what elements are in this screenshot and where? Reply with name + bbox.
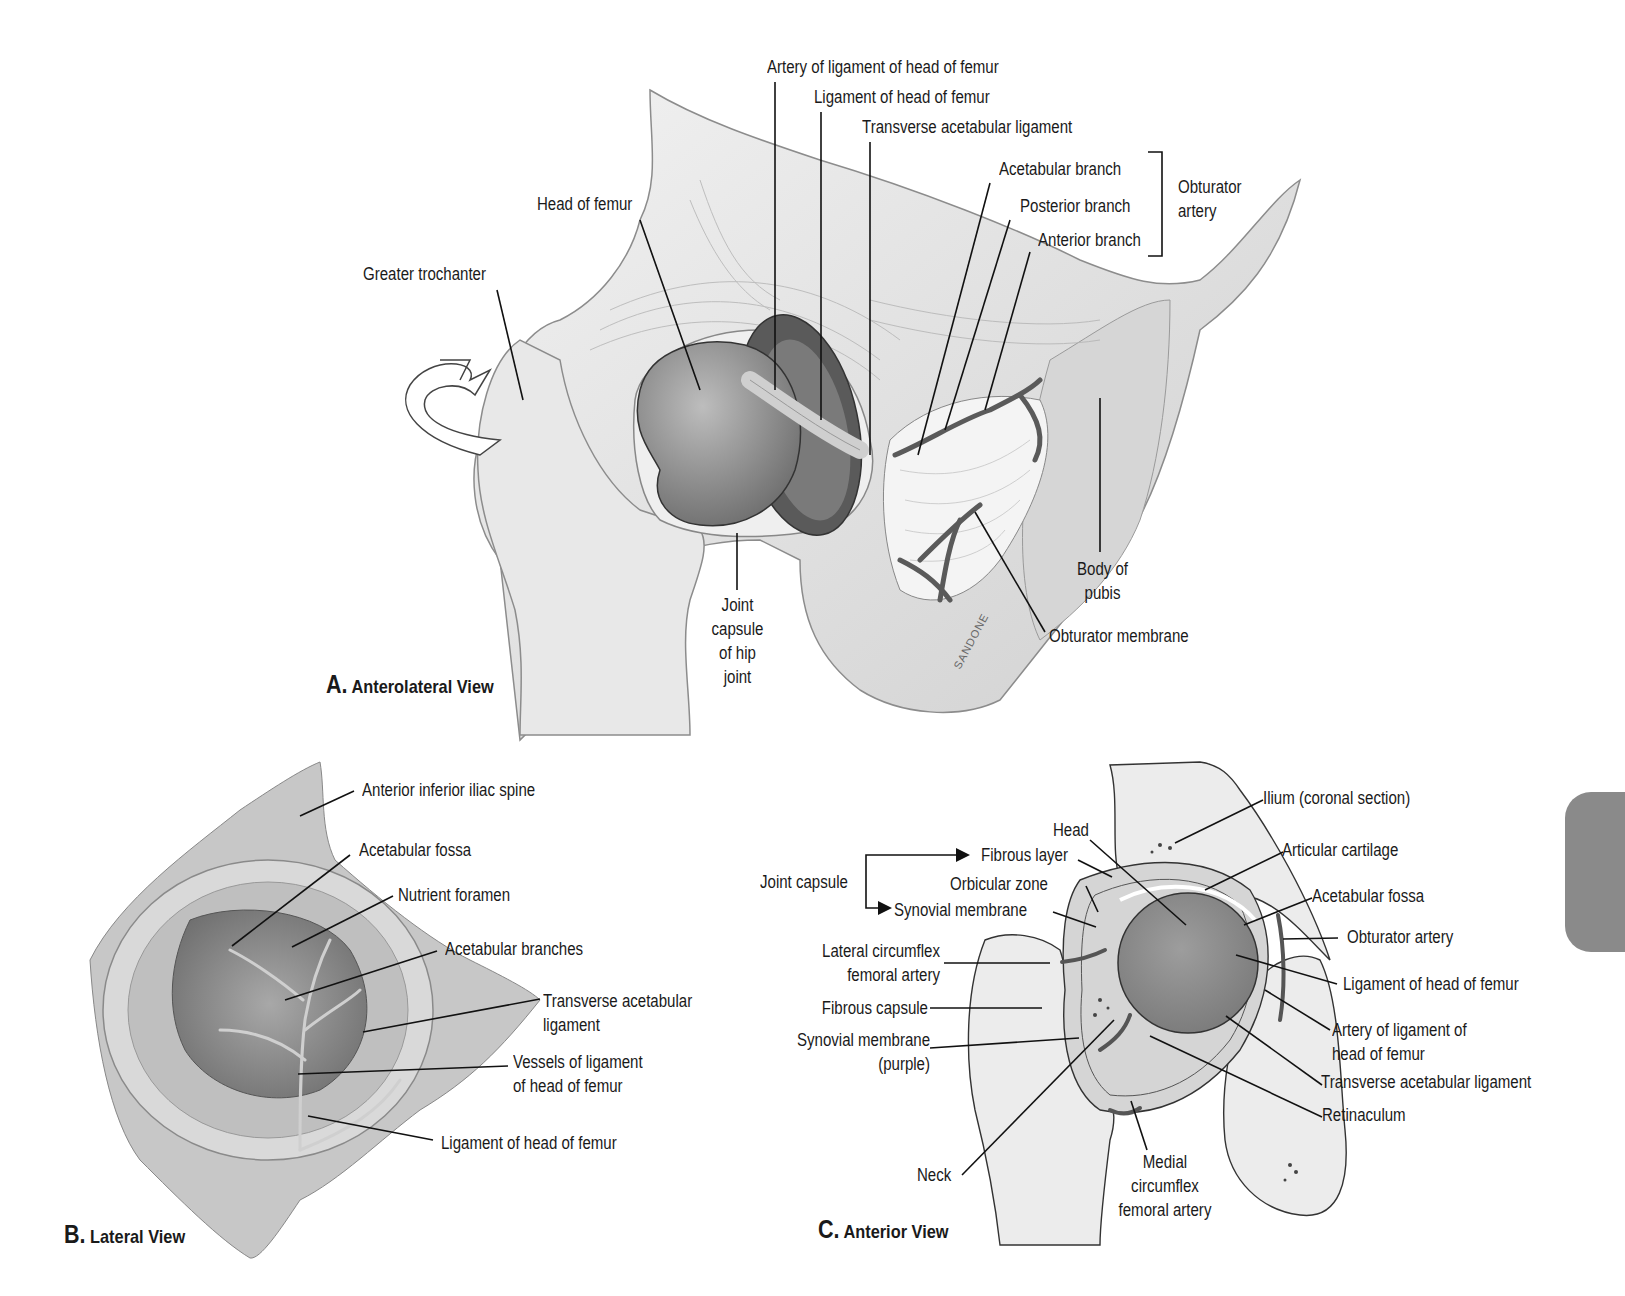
label-b-acetabular-branches: Acetabular branches — [445, 937, 583, 961]
panel-b-title-text: Lateral View — [90, 1226, 185, 1247]
label-c-artery-ligament-head: Artery of ligament of head of femur — [1332, 1018, 1467, 1066]
panel-c-letter: C. — [818, 1215, 840, 1243]
label-c-fibrous-capsule: Fibrous capsule — [784, 996, 928, 1020]
panel-b-title: B. Lateral View — [64, 1220, 185, 1249]
label-c-retinaculum: Retinaculum — [1322, 1103, 1406, 1127]
label-a-joint-capsule: Joint capsule of hip joint — [705, 593, 770, 689]
label-c-obturator-artery: Obturator artery — [1347, 925, 1453, 949]
panel-a-title-text: Anterolateral View — [351, 676, 493, 697]
label-b-vessels-ligament: Vessels of ligament of head of femur — [513, 1050, 643, 1098]
label-a-ligament-head: Ligament of head of femur — [814, 85, 990, 109]
label-b-transverse-acetabular: Transverse acetabular ligament — [543, 989, 692, 1037]
label-b-nutrient-foramen: Nutrient foramen — [398, 883, 510, 907]
label-c-lateral-circumflex: Lateral circumflex femoral artery — [785, 939, 940, 987]
label-b-ligament-head: Ligament of head of femur — [441, 1131, 617, 1155]
label-a-artery-ligament-head: Artery of ligament of head of femur — [767, 55, 999, 79]
label-a-transverse-acetabular: Transverse acetabular ligament — [862, 115, 1072, 139]
label-a-body-of-pubis: Body of pubis — [1070, 557, 1135, 605]
label-c-orbicular-zone: Orbicular zone — [950, 872, 1048, 896]
label-c-synovial-membrane: Synovial membrane — [894, 898, 1027, 922]
label-c-head: Head — [1053, 818, 1089, 842]
label-a-acetabular-branch: Acetabular branch — [999, 157, 1121, 181]
panel-a-title: A. Anterolateral View — [326, 670, 494, 699]
label-a-head-of-femur: Head of femur — [537, 192, 632, 216]
label-a-greater-trochanter: Greater trochanter — [363, 262, 486, 286]
label-c-synovial-purple: Synovial membrane (purple) — [767, 1028, 930, 1076]
label-c-acetabular-fossa: Acetabular fossa — [1312, 884, 1424, 908]
chapter-thumb-tab — [1565, 792, 1625, 952]
label-a-posterior-branch: Posterior branch — [1020, 194, 1130, 218]
label-b-acetabular-fossa: Acetabular fossa — [359, 838, 471, 862]
panel-c-title: C. Anterior View — [818, 1215, 948, 1244]
label-c-transverse-acetabular: Transverse acetabular ligament — [1321, 1070, 1531, 1094]
label-c-ligament-head: Ligament of head of femur — [1343, 972, 1519, 996]
label-c-joint-capsule: Joint capsule — [760, 870, 848, 894]
panel-b-letter: B. — [64, 1220, 86, 1248]
label-a-anterior-branch: Anterior branch — [1038, 228, 1141, 252]
panel-a-letter: A. — [326, 670, 348, 698]
label-b-anterior-inferior-iliac-spine: Anterior inferior iliac spine — [362, 778, 535, 802]
panel-b-illustration — [90, 762, 540, 1258]
label-c-neck: Neck — [917, 1163, 951, 1187]
label-c-medial-circumflex: Medial circumflex femoral artery — [1109, 1150, 1221, 1222]
panel-c-title-text: Anterior View — [843, 1221, 948, 1242]
label-c-articular-cartilage: Articular cartilage — [1282, 838, 1398, 862]
label-c-fibrous-layer: Fibrous layer — [981, 843, 1068, 867]
label-c-ilium: Ilium (coronal section) — [1263, 786, 1410, 810]
label-a-obturator-artery: Obturator artery — [1178, 175, 1242, 223]
label-a-obturator-membrane: Obturator membrane — [1049, 624, 1189, 648]
